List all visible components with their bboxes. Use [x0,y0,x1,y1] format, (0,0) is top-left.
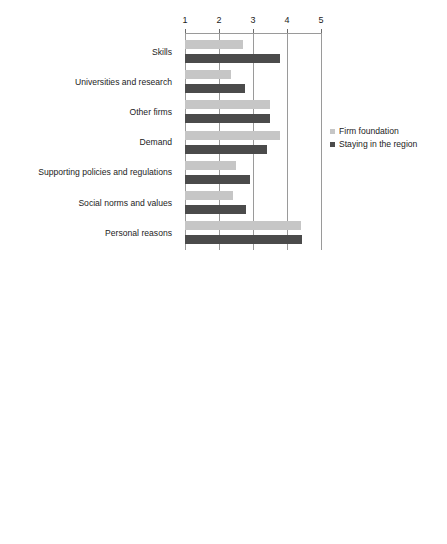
gridline [321,33,322,250]
bar [185,161,236,170]
plot-area: 12345 [185,0,321,272]
x-tick-label: 5 [318,16,323,25]
gridline [219,33,220,250]
bar [185,175,250,184]
bar [185,84,245,93]
legend-label: Staying in the region [339,138,417,151]
bar [185,235,302,244]
legend-swatch-icon [330,142,335,147]
legend-label: Firm foundation [339,125,399,138]
x-tick-label: 2 [216,16,221,25]
chart-panel-1: SkillsUniversities and researchOther fir… [0,0,447,272]
category-label: Social norms and values [78,198,172,208]
bar [185,221,301,230]
x-axis-line [185,33,321,34]
bar [185,131,280,140]
category-label: Personal reasons [105,228,172,238]
category-label: Skills [152,47,172,57]
x-tick-label: 4 [284,16,289,25]
bar [185,54,280,63]
legend-item: Firm foundation [330,125,417,138]
bar [185,191,233,200]
gridline [185,33,186,250]
category-label: Other firms [130,107,173,117]
legend-item: Staying in the region [330,138,417,151]
bar [185,114,270,123]
bar [185,145,267,154]
x-tick-label: 1 [182,16,187,25]
category-axis-labels: SkillsUniversities and researchOther fir… [0,0,178,272]
category-label: Demand [140,137,172,147]
bar [185,40,243,49]
category-label: Supporting policies and regulations [38,167,172,177]
figure-two-panel-bar-charts: SkillsUniversities and researchOther fir… [0,0,447,544]
category-label: Universities and research [75,77,172,87]
bar [185,205,246,214]
bar [185,70,231,79]
legend: Firm foundationStaying in the region [330,125,417,151]
legend-swatch-icon [330,129,335,134]
x-tick-label: 3 [250,16,255,25]
gridline [253,33,254,250]
bar [185,100,270,109]
gridline [287,33,288,250]
